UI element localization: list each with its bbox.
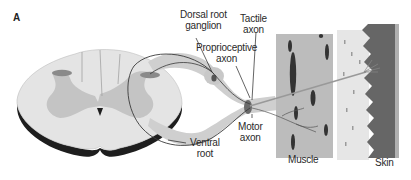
label-line: axon [240,24,267,35]
panel-label: A [13,12,20,23]
label-skin: Skin [375,157,394,168]
spinal-cord-innervation-diagram: A Dorsal root ganglion Tactile axon Prop… [0,0,411,180]
label-muscle: Muscle [288,154,318,165]
label-ventral-root: Ventral root [190,137,220,159]
label-line: Proprioceptive [196,42,257,53]
label-line: Tactile [240,13,267,24]
label-line: ganglion [180,20,227,31]
dorsal-horn-left [52,70,72,76]
label-line: axon [196,53,257,64]
label-line: axon [238,132,263,143]
label-tactile-axon: Tactile axon [240,13,267,35]
label-proprioceptive-axon: Proprioceptive axon [196,42,257,64]
ganglion-cell-body [211,74,216,81]
label-line: root [190,148,220,159]
label-line: Motor [238,121,263,132]
dorsal-horn-right [140,72,160,78]
label-dorsal-root-ganglion: Dorsal root ganglion [180,9,227,31]
label-motor-axon: Motor axon [238,121,263,143]
skin-surface [395,24,399,158]
label-line: Dorsal root [180,9,227,20]
label-line: Ventral [190,137,220,148]
dermis [337,30,369,160]
